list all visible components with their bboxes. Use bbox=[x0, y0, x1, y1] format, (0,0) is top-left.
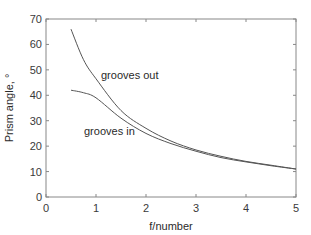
y-tick-label: 30 bbox=[30, 115, 42, 127]
axis-ticks bbox=[46, 19, 296, 197]
axis-tick-labels: 012345010203040506070 bbox=[30, 13, 299, 214]
x-tick-label: 1 bbox=[93, 202, 99, 214]
annotation-grooves-in: grooves in bbox=[84, 125, 135, 137]
x-tick-label: 2 bbox=[143, 202, 149, 214]
y-tick-label: 70 bbox=[30, 13, 42, 25]
x-axis-label: f/number bbox=[149, 220, 193, 232]
y-tick-label: 0 bbox=[36, 191, 42, 203]
y-tick-label: 10 bbox=[30, 166, 42, 178]
x-tick-label: 4 bbox=[243, 202, 249, 214]
y-tick-label: 50 bbox=[30, 64, 42, 76]
plot-frame bbox=[46, 19, 296, 197]
y-axis-label: Prism angle, ° bbox=[3, 74, 15, 143]
y-tick-label: 40 bbox=[30, 89, 42, 101]
chart: 012345010203040506070 f/number Prism ang… bbox=[0, 0, 311, 235]
x-tick-label: 5 bbox=[293, 202, 299, 214]
data-lines bbox=[71, 29, 296, 169]
x-tick-label: 3 bbox=[193, 202, 199, 214]
x-tick-label: 0 bbox=[43, 202, 49, 214]
y-tick-label: 20 bbox=[30, 140, 42, 152]
annotation-grooves-out: grooves out bbox=[101, 69, 158, 81]
y-tick-label: 60 bbox=[30, 38, 42, 50]
